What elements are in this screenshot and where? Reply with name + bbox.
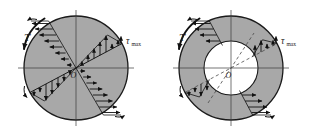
tau-symbol: τ [126,36,130,46]
center-label: O [226,71,232,80]
center-label: O [71,71,77,80]
tau-subscript: max [287,41,297,47]
torque-label: T [24,31,31,43]
tau-symbol: τ [281,36,285,46]
torsion-stress-figure: T O τ max [0,0,309,136]
tau-subscript: max [132,41,142,47]
torque-label: T [179,31,186,43]
